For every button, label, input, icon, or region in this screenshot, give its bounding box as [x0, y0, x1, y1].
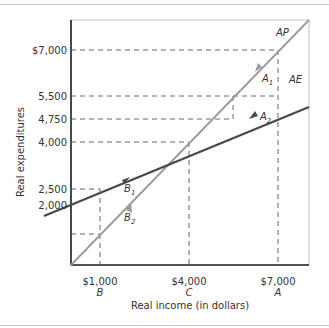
x-axis-title: Real income (in dollars)	[131, 300, 249, 311]
b2-label: B2	[124, 212, 136, 226]
y-tick-2500: 2,500	[38, 184, 67, 195]
arrow-a2-icon	[249, 111, 258, 119]
x-tick-1000: $1,000	[83, 276, 118, 287]
y-tick-4750: 4,750	[38, 114, 67, 125]
b1-label: B1	[124, 183, 135, 197]
x-sublabel-b: B	[97, 287, 104, 298]
a1-label: A1	[261, 73, 273, 87]
y-tick-5500: 5,500	[38, 91, 67, 102]
a2-label: A2	[259, 111, 272, 125]
ap-label: AP	[275, 27, 290, 38]
y-axis-title: Real expenditures	[15, 107, 26, 197]
x-tick-4000: $4,000	[172, 276, 207, 287]
ae-label: AE	[288, 74, 303, 85]
chart: AP AE A1 A2 B1 B2 $7,000 5,500 4,750 4,0…	[0, 0, 329, 328]
ap-line	[71, 20, 309, 265]
y-tick-2000: 2,000	[38, 200, 67, 211]
x-sublabel-c: C	[186, 287, 193, 298]
x-sublabel-a: A	[274, 287, 282, 298]
y-tick-4000: 4,000	[38, 137, 67, 148]
x-tick-7000: $7,000	[261, 276, 296, 287]
y-tick-7000: $7,000	[32, 45, 67, 56]
